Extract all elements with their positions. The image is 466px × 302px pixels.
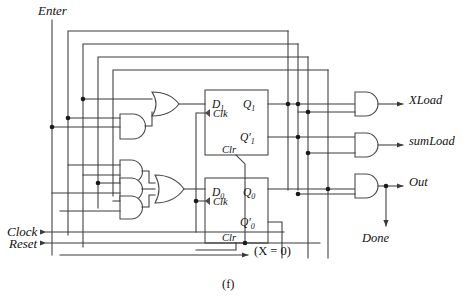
or-gate-u6 [155,175,184,203]
input-label-reset: Reset [9,237,37,250]
output-label-out: Out [409,176,428,189]
and-gate-xload [355,92,378,116]
wire-u1-out [145,112,152,126]
and-gate-u5 [120,196,143,219]
wire-ff0-clr [196,243,236,250]
output-label-done: Done [362,232,389,245]
output-label-sumload: sumLoad [409,135,455,148]
svg-text:Clk: Clk [213,108,228,119]
figure-canvas: D1 Q1 Clk Q′1 Clr D0 Q0 Clk Q′0 Clr Ente… [0,0,466,302]
input-label-x-equals-zero: (X = 0) [254,245,291,258]
svg-text:Clr: Clr [222,144,237,155]
and-gate-u1 [120,114,146,139]
circuit-schematic: D1 Q1 Clk Q′1 Clr D0 Q0 Clk Q′0 Clr [0,0,466,302]
and-gate-sumload [355,133,378,157]
wire-u3-out [142,171,155,183]
wire-ff1-clk [196,113,205,232]
svg-text:Clk: Clk [213,196,228,207]
figure-caption: (f) [222,278,235,291]
svg-text:Clr: Clr [222,232,237,243]
wire-u5-out [142,195,155,207]
output-label-xload: XLoad [409,94,442,107]
or-gate-u2 [152,92,179,116]
and-gate-out [355,174,378,198]
input-label-enter: Enter [38,4,67,17]
